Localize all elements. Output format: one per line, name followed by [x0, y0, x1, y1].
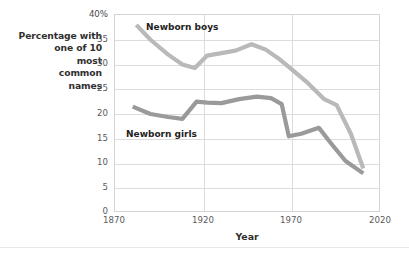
x-tick-2020: 2020	[357, 215, 403, 225]
series-label-newborn-boys: Newborn boys	[146, 22, 218, 32]
x-tick-1920: 1920	[180, 215, 226, 225]
y-tick-5: 5	[68, 182, 108, 192]
chart-container: Percentage with one of 10 most common na…	[0, 0, 409, 255]
y-tick-35: 35	[68, 34, 108, 44]
series-label-newborn-girls: Newborn girls	[126, 129, 197, 139]
y-tick-40: 40%	[60, 9, 108, 19]
x-tick-1970: 1970	[268, 215, 314, 225]
y-axis-title-line-2: one of 10	[6, 42, 102, 54]
y-tick-30: 30	[68, 58, 108, 68]
y-tick-10: 10	[68, 157, 108, 167]
x-tick-1870: 1870	[91, 215, 137, 225]
y-tick-15: 15	[68, 133, 108, 143]
series-plot	[115, 15, 380, 212]
x-axis-title: Year	[114, 231, 380, 242]
plot-area	[114, 14, 380, 212]
footer-divider	[0, 247, 409, 248]
y-tick-20: 20	[68, 108, 108, 118]
y-tick-25: 25	[68, 83, 108, 93]
y-axis-title-line-4: common	[6, 67, 102, 79]
